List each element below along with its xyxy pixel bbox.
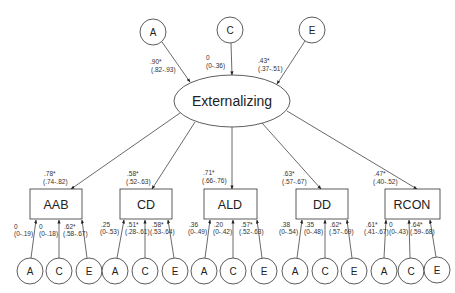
rcon-e-ci: (.59-.68) bbox=[410, 228, 435, 236]
aab-c-label: C bbox=[55, 266, 62, 277]
ald-e-label: E bbox=[261, 266, 268, 277]
cd-a-label: A bbox=[112, 266, 119, 277]
top-factor-e-label: E bbox=[309, 25, 316, 36]
ci-a-externalizing: (.82-.93) bbox=[151, 66, 176, 74]
dd-c-ci: (0-.48) bbox=[304, 228, 323, 236]
coef-a-externalizing: .90* bbox=[150, 58, 162, 65]
indicator-ald-label: ALD bbox=[218, 198, 242, 212]
dd-e-label: E bbox=[351, 266, 358, 277]
dd-a-ci: (0-.54) bbox=[279, 228, 298, 236]
cd-c-coef: .51* bbox=[127, 221, 139, 228]
ald-a-ci: (0-.49) bbox=[188, 228, 207, 236]
aab-c-coef: 0 bbox=[39, 223, 43, 230]
path-a-to-externalizing bbox=[162, 42, 190, 82]
indicator-rcon: RCON bbox=[385, 189, 440, 219]
indicator-dd: DD bbox=[296, 189, 348, 219]
path-diagram: A C E .90* (.82-.93) 0 (0-.36) .43* (.37… bbox=[0, 0, 455, 293]
coef-e-externalizing: .43* bbox=[258, 57, 270, 64]
ald-c-coef: .20 bbox=[214, 221, 223, 228]
path-e-to-externalizing bbox=[277, 41, 305, 84]
cd-specific-factors: A C E .25 (0-.53) .51* (.28-.61) .58* (.… bbox=[100, 220, 188, 284]
aab-e-coef: .62* bbox=[64, 223, 76, 230]
dd-a-label: A bbox=[292, 266, 299, 277]
top-factor-c-label: C bbox=[226, 25, 233, 36]
indicator-aab-label: AAB bbox=[43, 198, 68, 212]
loading-rcon: .47* bbox=[374, 170, 386, 177]
path-externalizing-to-cd bbox=[152, 122, 195, 189]
loading-ci-rcon: (.40-.52) bbox=[373, 178, 398, 186]
indicator-dd-label: DD bbox=[313, 198, 331, 212]
rcon-a-coef: .61* bbox=[366, 221, 378, 228]
cd-e-ci: (.53-.64) bbox=[150, 228, 175, 236]
rcon-specific-factors: A C E .61* (.41-.67) 0 (0-.43) .64* (.59… bbox=[364, 220, 450, 284]
top-factor-a: A bbox=[140, 19, 166, 45]
cd-c-ci: (.28-.61) bbox=[125, 228, 150, 236]
cd-e-label: E bbox=[172, 266, 179, 277]
top-factor-c: C bbox=[217, 17, 243, 43]
dd-specific-factors: A C E .38 (0-.54) .35 (0-.48) .62* (.57-… bbox=[279, 220, 367, 284]
indicator-cd: CD bbox=[120, 189, 172, 219]
cd-e-coef: .58* bbox=[152, 221, 164, 228]
rcon-e-label: E bbox=[434, 265, 441, 276]
cd-a-coef: .25 bbox=[101, 221, 110, 228]
rcon-c-ci: (0-.43) bbox=[389, 228, 408, 236]
loading-ald: .71* bbox=[203, 169, 215, 176]
coef-c-externalizing: 0 bbox=[206, 54, 210, 61]
rcon-a-label: A bbox=[381, 266, 388, 277]
aab-c-ci: (0-.18) bbox=[39, 230, 58, 238]
externalizing-latent: Externalizing bbox=[174, 75, 290, 127]
path-c-to-externalizing bbox=[231, 43, 232, 75]
dd-a-coef: .38 bbox=[281, 221, 290, 228]
aab-e-ci: (.58-.67) bbox=[63, 230, 88, 238]
loading-ci-ald: (.66-.76) bbox=[202, 177, 227, 185]
rcon-a-ci: (.41-.67) bbox=[364, 228, 389, 236]
dd-c-coef: .35 bbox=[305, 221, 314, 228]
loading-ci-dd: (.57-.67) bbox=[282, 178, 307, 186]
top-factor-e: E bbox=[299, 17, 325, 43]
ci-c-externalizing: (0-.36) bbox=[206, 62, 225, 70]
aab-specific-factors: A C E 0 (0-.19) 0 (0-.18) .62* (.58-.67) bbox=[14, 220, 102, 284]
indicator-rcon-label: RCON bbox=[394, 198, 431, 212]
aab-a-label: A bbox=[27, 266, 34, 277]
rcon-c-label: C bbox=[407, 266, 414, 277]
indicator-aab: AAB bbox=[30, 189, 82, 219]
dd-e-coef: .62* bbox=[330, 221, 342, 228]
ald-a-label: A bbox=[201, 266, 208, 277]
dd-e-ci: (.57-.69) bbox=[329, 228, 354, 236]
rcon-e-coef: .64* bbox=[411, 221, 423, 228]
indicator-ald: ALD bbox=[204, 189, 257, 219]
ald-c-ci: (0-.42) bbox=[213, 228, 232, 236]
loading-aab: .78* bbox=[44, 170, 56, 177]
loading-ci-cd: (.52-.63) bbox=[126, 178, 151, 186]
aab-e-label: E bbox=[86, 266, 93, 277]
loading-cd: .58* bbox=[127, 170, 139, 177]
dd-c-label: C bbox=[321, 266, 328, 277]
ald-specific-factors: A C E .36 (0-.49) .20 (0-.42) .57* (.52-… bbox=[188, 220, 277, 284]
ci-e-externalizing: (.37-.51) bbox=[258, 65, 283, 73]
ald-c-label: C bbox=[229, 266, 236, 277]
indicator-cd-label: CD bbox=[137, 198, 155, 212]
aab-a-coef: 0 bbox=[14, 223, 18, 230]
rcon-c-coef: 0 bbox=[389, 221, 393, 228]
aab-a-ci: (0-.19) bbox=[14, 230, 33, 238]
top-factor-a-label: A bbox=[150, 27, 157, 38]
ald-a-coef: .36 bbox=[189, 221, 198, 228]
ald-e-ci: (.52-.63) bbox=[239, 228, 264, 236]
loading-dd: .63* bbox=[283, 170, 295, 177]
cd-a-ci: (0-.53) bbox=[100, 228, 119, 236]
ald-e-coef: .57* bbox=[241, 221, 253, 228]
loading-ci-aab: (.74-.82) bbox=[43, 178, 68, 186]
externalizing-label: Externalizing bbox=[192, 93, 272, 109]
cd-c-label: C bbox=[141, 266, 148, 277]
